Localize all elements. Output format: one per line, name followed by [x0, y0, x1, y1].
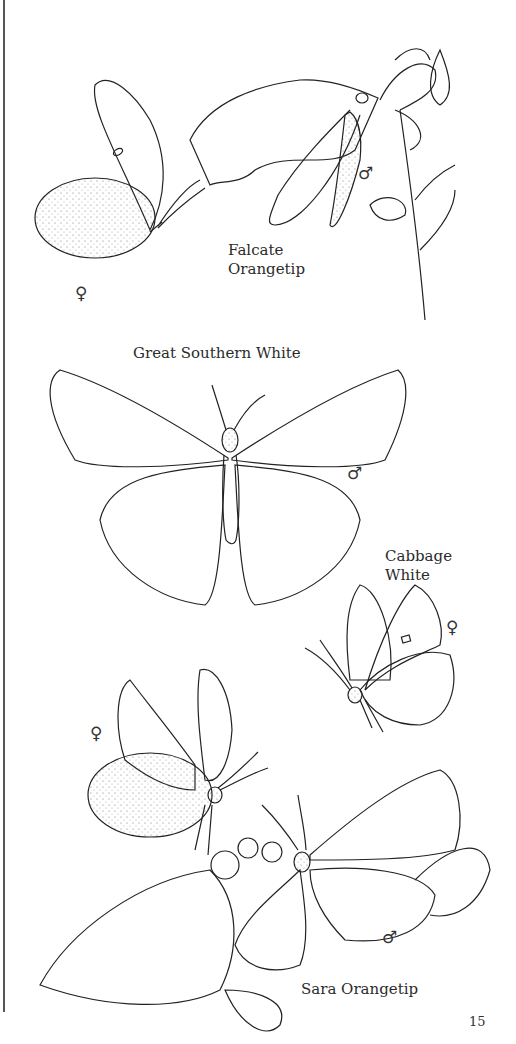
male-symbol-icon: ♂	[358, 165, 373, 182]
species-label-falcate-orangetip: Falcate Orangetip	[228, 241, 305, 279]
butterfly-illustrations	[0, 0, 516, 1044]
label-line: Orangetip	[228, 260, 305, 279]
page-number: 15	[469, 1014, 486, 1029]
falcate-orangetip-male-drawing	[190, 49, 455, 320]
sara-orangetip-female-drawing	[88, 669, 268, 855]
great-southern-white-male-drawing	[50, 370, 406, 605]
label-line: White	[385, 566, 452, 585]
male-symbol-icon: ♂	[347, 465, 362, 482]
falcate-orangetip-female-drawing	[35, 80, 205, 258]
male-symbol-icon: ♂	[382, 929, 397, 946]
coloring-book-page: Falcate Orangetip Great Southern White C…	[0, 0, 516, 1044]
female-symbol-icon: ♀	[446, 619, 458, 636]
female-symbol-icon: ♀	[90, 725, 102, 742]
female-symbol-icon: ♀	[75, 285, 87, 302]
cabbage-white-female-drawing	[305, 585, 454, 732]
species-label-cabbage-white: Cabbage White	[385, 547, 452, 585]
species-label-great-southern-white: Great Southern White	[133, 344, 301, 363]
label-line: Great Southern White	[133, 344, 301, 363]
label-line: Cabbage	[385, 547, 452, 566]
species-label-sara-orangetip: Sara Orangetip	[301, 980, 418, 999]
label-line: Sara Orangetip	[301, 980, 418, 999]
label-line: Falcate	[228, 241, 305, 260]
